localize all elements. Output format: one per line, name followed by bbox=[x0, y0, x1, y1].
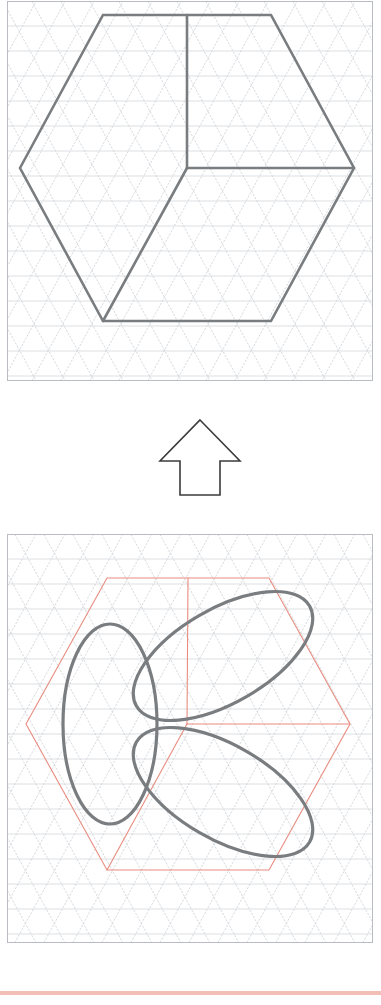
grid-diagonal-line-right bbox=[7, 1, 137, 381]
grid-diagonal-line-right bbox=[88, 534, 340, 943]
grid-diagonal-line-left bbox=[250, 1, 373, 381]
grid-diagonal-line-right bbox=[7, 1, 21, 381]
cube-interior-edge bbox=[103, 168, 187, 321]
grid-diagonal-line-right bbox=[7, 1, 224, 381]
grid-diagonal-line-left bbox=[291, 534, 373, 943]
bottom-panel-canvas bbox=[7, 534, 373, 943]
grid-diagonal-line-right bbox=[221, 1, 373, 381]
grid-diagonal-line-left bbox=[134, 1, 369, 381]
grid-diagonal-line-left bbox=[366, 1, 373, 381]
cube-figure bbox=[20, 15, 354, 321]
grid-diagonal-line-left bbox=[7, 534, 253, 943]
grid-diagonal-line-right bbox=[7, 1, 50, 381]
grid-diagonal-line-right bbox=[204, 534, 373, 943]
up-arrow-icon bbox=[150, 415, 250, 500]
grid-diagonal-line-left bbox=[221, 1, 373, 381]
grid-diagonal-line-left bbox=[18, 1, 253, 381]
grid-diagonal-line-right bbox=[7, 534, 137, 943]
grid-diagonal-line-left bbox=[349, 534, 373, 943]
grid-diagonal-line-right bbox=[291, 534, 373, 943]
panel-border bbox=[8, 2, 373, 381]
grid-diagonal-line-right bbox=[7, 534, 253, 943]
grid-diagonal-line-left bbox=[7, 534, 79, 943]
grid-diagonal-line-right bbox=[7, 534, 50, 943]
grid-diagonal-line-left bbox=[7, 1, 21, 381]
cube-interior-edge bbox=[187, 578, 188, 724]
grid-diagonal-line-right bbox=[349, 534, 373, 943]
grid-diagonal-line-right bbox=[320, 534, 373, 943]
grid-diagonal-line-left bbox=[7, 1, 137, 381]
grid-diagonal-line-right bbox=[192, 1, 373, 381]
footer-rule-line bbox=[0, 990, 381, 995]
worksheet-page bbox=[0, 0, 381, 1005]
grid-diagonal-line-left bbox=[7, 1, 50, 381]
grid-diagonal-line-right bbox=[366, 1, 373, 381]
top-panel-canvas bbox=[7, 1, 373, 381]
grid-diagonal-line-right bbox=[7, 1, 195, 381]
grid-diagonal-line-right bbox=[7, 1, 108, 381]
grid-diagonal-line-left bbox=[7, 534, 195, 943]
grid-diagonal-line-left bbox=[7, 534, 166, 943]
grid-diagonal-line-left bbox=[7, 534, 21, 943]
grid-diagonal-line-left bbox=[7, 1, 224, 381]
grid-diagonal-line-left bbox=[47, 1, 282, 381]
grid-diagonal-line-right bbox=[7, 534, 79, 943]
grid-diagonal-line-right bbox=[7, 534, 224, 943]
grid-diagonal-line-left bbox=[7, 534, 137, 943]
grid-group bbox=[7, 1, 373, 381]
bottom-isometric-panel bbox=[7, 534, 373, 943]
grid-diagonal-line-right bbox=[175, 534, 373, 943]
grid-diagonal-line-left bbox=[105, 1, 340, 381]
grid-diagonal-line-left bbox=[7, 534, 108, 943]
grid-diagonal-line-left bbox=[192, 1, 373, 381]
grid-diagonal-line-left bbox=[76, 1, 311, 381]
cube-interior-edge bbox=[107, 724, 187, 870]
footer-rule bbox=[0, 990, 381, 995]
grid-diagonal-line-left bbox=[175, 534, 373, 943]
top-isometric-panel bbox=[7, 1, 373, 381]
up-arrow-block bbox=[150, 415, 250, 500]
grid-diagonal-line-left bbox=[146, 534, 373, 943]
grid-diagonal-line-left bbox=[88, 534, 340, 943]
grid-diagonal-line-right bbox=[7, 534, 166, 943]
grid-diagonal-line-left bbox=[7, 1, 108, 381]
grid-diagonal-line-right bbox=[7, 534, 21, 943]
grid-diagonal-line-right bbox=[146, 534, 373, 943]
grid-diagonal-line-right bbox=[7, 534, 108, 943]
grid-diagonal-line-left bbox=[7, 1, 79, 381]
grid-diagonal-line-right bbox=[7, 1, 79, 381]
grid-diagonal-line-right bbox=[7, 534, 195, 943]
grid-diagonal-line-right bbox=[250, 1, 373, 381]
grid-diagonal-line-left bbox=[7, 1, 166, 381]
grid-diagonal-line-left bbox=[204, 534, 373, 943]
grid-diagonal-line-left bbox=[7, 534, 50, 943]
grid-diagonal-line-right bbox=[7, 1, 166, 381]
grid-diagonal-line-left bbox=[320, 534, 373, 943]
up-arrow-shape bbox=[160, 420, 240, 495]
grid-diagonal-line-left bbox=[7, 1, 195, 381]
grid-diagonal-line-left bbox=[7, 534, 224, 943]
footer-rule-bar bbox=[0, 991, 381, 995]
